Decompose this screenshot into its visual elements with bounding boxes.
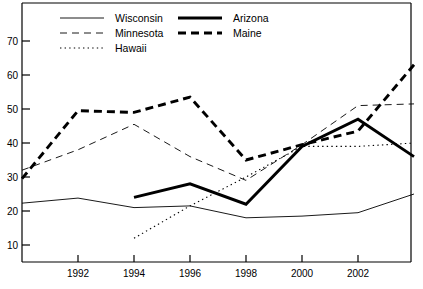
x-tick-label: 1994 — [123, 268, 146, 279]
chart-canvas: 10203040506070 199219941996199820002002 … — [0, 0, 423, 289]
y-tick-label: 40 — [7, 138, 19, 149]
chart-background — [0, 0, 423, 289]
x-tick-label: 2000 — [291, 268, 314, 279]
y-tick-label: 10 — [7, 240, 19, 251]
x-tick-label: 2002 — [347, 268, 370, 279]
legend-label-hawaii: Hawaii — [115, 42, 147, 54]
legend-label-wisconsin: Wisconsin — [115, 12, 163, 24]
x-tick-label: 1996 — [179, 268, 202, 279]
y-tick-label: 50 — [7, 104, 19, 115]
x-tick-label: 1992 — [67, 268, 90, 279]
y-tick-label: 20 — [7, 206, 19, 217]
y-tick-label: 30 — [7, 172, 19, 183]
legend-label-maine: Maine — [233, 27, 262, 39]
y-tick-label: 70 — [7, 36, 19, 47]
legend-label-arizona: Arizona — [233, 12, 269, 24]
y-tick-label: 60 — [7, 70, 19, 81]
legend-label-minnesota: Minnesota — [115, 27, 164, 39]
line-chart: 10203040506070 199219941996199820002002 … — [0, 0, 423, 289]
x-tick-label: 1998 — [235, 268, 258, 279]
